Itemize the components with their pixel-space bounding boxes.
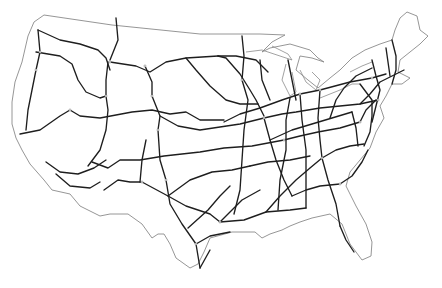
us-interstate-map bbox=[0, 0, 442, 288]
interchange-marker bbox=[141, 181, 143, 183]
highway-route bbox=[218, 56, 264, 116]
highway-route bbox=[92, 140, 284, 168]
highway-route bbox=[250, 156, 310, 166]
highway-route bbox=[104, 180, 142, 190]
interchange-marker bbox=[35, 69, 37, 71]
interchange-marker bbox=[339, 183, 341, 185]
interchange-marker bbox=[359, 121, 361, 123]
lake-shoreline bbox=[300, 70, 320, 90]
interchange-marker bbox=[39, 51, 41, 53]
highway-route bbox=[160, 116, 264, 130]
highway-route bbox=[142, 182, 220, 222]
highway-route bbox=[46, 160, 106, 174]
highway-route bbox=[145, 66, 160, 130]
highway-route bbox=[392, 40, 396, 84]
highway-route bbox=[168, 166, 250, 196]
highway-route bbox=[140, 140, 146, 182]
interchange-marker bbox=[105, 95, 107, 97]
lake-shoreline bbox=[320, 84, 360, 98]
highway-route bbox=[352, 112, 358, 146]
highway-route bbox=[386, 48, 390, 76]
highway-route bbox=[224, 74, 386, 122]
interchange-marker bbox=[195, 243, 197, 245]
highway-route bbox=[56, 174, 100, 188]
highway-route bbox=[26, 30, 40, 130]
highway-route bbox=[270, 112, 352, 140]
interchange-marker bbox=[377, 99, 379, 101]
highway-route bbox=[200, 250, 210, 268]
highway-route bbox=[38, 30, 110, 70]
interchange-marker bbox=[283, 139, 285, 141]
interchange-marker bbox=[69, 109, 71, 111]
highway-route bbox=[110, 56, 218, 72]
interchange-marker bbox=[321, 157, 323, 159]
interchange-marker bbox=[109, 61, 111, 63]
highway-route bbox=[284, 122, 360, 140]
highway-route bbox=[220, 208, 306, 222]
great-lakes-outline bbox=[246, 46, 372, 98]
highway-route bbox=[20, 110, 224, 134]
interchange-marker bbox=[165, 179, 167, 181]
interchange-marker bbox=[219, 221, 221, 223]
highway-route bbox=[264, 118, 292, 196]
interchange-marker bbox=[299, 93, 301, 95]
interchange-marker bbox=[263, 117, 265, 119]
highway-route bbox=[220, 190, 260, 222]
interchange-marker bbox=[241, 79, 243, 81]
highway-route bbox=[110, 18, 118, 60]
country-border bbox=[12, 12, 428, 268]
interchange-marker bbox=[144, 65, 146, 67]
interchange-marker bbox=[151, 95, 153, 97]
highway-route bbox=[266, 158, 322, 212]
highway-route bbox=[340, 226, 354, 252]
interchange-marker bbox=[157, 129, 159, 131]
lake-shoreline bbox=[350, 62, 372, 72]
border-line bbox=[12, 12, 428, 268]
interstate-highways bbox=[20, 18, 404, 268]
interchange-marker bbox=[371, 77, 373, 79]
highway-route bbox=[158, 130, 200, 268]
interchange-marker bbox=[319, 89, 321, 91]
highway-route bbox=[88, 62, 108, 166]
highway-route bbox=[36, 52, 106, 98]
